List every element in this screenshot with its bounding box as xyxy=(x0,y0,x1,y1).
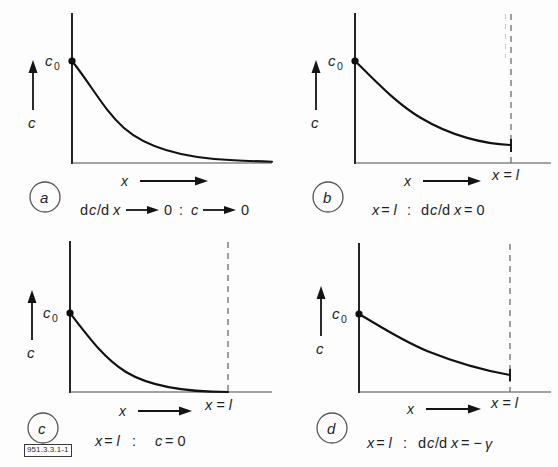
c0-label: c xyxy=(328,52,336,69)
condition-c2: c xyxy=(191,202,199,218)
c0-subscript: 0 xyxy=(52,312,58,324)
scan-edge-artifact xyxy=(505,14,506,58)
condition-arrow1-head xyxy=(147,206,159,214)
panel-letter: d xyxy=(327,420,336,437)
panel-a: c c 0 x a d c /d x 0 xyxy=(0,0,279,233)
condition-arrow2-head xyxy=(224,206,236,214)
panel-b: c c 0 x x = l b x = l : d c /d xyxy=(279,0,558,233)
y-axis-label: c xyxy=(27,344,35,361)
panel-condition: d c /d x 0 : c 0 xyxy=(80,202,249,218)
condition-c: c xyxy=(155,433,163,449)
panel-letter: b xyxy=(323,189,331,206)
concentration-curve xyxy=(72,61,272,162)
condition-colon: : xyxy=(407,202,411,218)
condition-eq-neg: = − xyxy=(461,435,482,451)
x-axis-arrow-head xyxy=(195,177,208,186)
condition-eq-zero: = 0 xyxy=(464,202,485,218)
x-axis-arrow-head xyxy=(179,407,192,416)
c0-subscript: 0 xyxy=(337,60,343,72)
figure-root: c c 0 x a d c /d x 0 xyxy=(0,0,558,467)
condition-c1: c xyxy=(89,202,97,218)
panel-letter: a xyxy=(40,189,48,206)
condition-x2: x xyxy=(450,435,459,451)
y-axis-label: c xyxy=(316,340,324,357)
x-axis-arrow-head xyxy=(468,177,481,186)
panel-d: c c 0 x x = l d x = l : d c /d x xyxy=(279,234,558,467)
condition-x: x xyxy=(94,433,103,449)
condition-c: c xyxy=(430,202,438,218)
panel-condition: x = l : d c /d x = − γ xyxy=(366,435,493,452)
c0-label: c xyxy=(332,305,340,322)
condition-colon: : xyxy=(132,433,136,449)
condition-d: d xyxy=(418,435,426,451)
condition-d: d xyxy=(421,202,429,218)
condition-slash-d: /d xyxy=(438,202,450,218)
c0-subscript: 0 xyxy=(341,313,347,325)
c-axis-arrow-head xyxy=(29,60,38,73)
c-axis-arrow-head xyxy=(28,290,37,303)
c0-label: c xyxy=(43,304,51,321)
condition-x: x xyxy=(371,202,380,218)
c-axis-arrow-head xyxy=(317,286,326,299)
c0-label: c xyxy=(45,52,53,69)
condition-x1: x xyxy=(112,202,121,218)
x-axis-arrow-head xyxy=(468,405,481,414)
x-equals-l-label: x = l xyxy=(491,167,520,183)
x-axis-label: x xyxy=(406,401,415,417)
concentration-curve xyxy=(359,314,510,375)
condition-eq-l: = l xyxy=(376,435,392,451)
condition-d1: d xyxy=(80,202,88,218)
condition-eq-zero: = 0 xyxy=(165,433,186,449)
condition-slash-d: /d xyxy=(435,435,447,451)
x-axis-label: x xyxy=(118,403,127,419)
condition-eq-l: = l xyxy=(381,202,397,218)
x-axis-label: x xyxy=(120,173,129,189)
c0-subscript: 0 xyxy=(54,60,60,72)
concentration-curve xyxy=(355,61,511,145)
c-axis-arrow-head xyxy=(312,60,321,73)
condition-eq-l: = l xyxy=(104,433,120,449)
condition-x2: x xyxy=(453,202,462,218)
condition-gamma: γ xyxy=(485,436,493,452)
x-equals-l-label: x = l xyxy=(204,397,233,413)
panel-condition: x = l : c = 0 xyxy=(94,433,186,449)
x-equals-l-label: x = l xyxy=(490,395,519,411)
condition-x: x xyxy=(366,435,375,451)
condition-slash-d: /d xyxy=(97,202,109,218)
condition-c: c xyxy=(427,435,435,451)
condition-colon: : xyxy=(179,202,183,218)
x-axis-label: x xyxy=(403,173,412,189)
figure-id-stamp: 951.3.3.1-1 xyxy=(24,444,72,457)
condition-zero2: 0 xyxy=(241,202,249,218)
panel-c: c c 0 x x = l c x = l : c = 0 xyxy=(0,234,279,467)
y-axis-label: c xyxy=(311,114,319,131)
panel-letter: c xyxy=(38,420,46,437)
condition-zero1: 0 xyxy=(164,202,172,218)
concentration-curve xyxy=(70,313,228,392)
condition-colon: : xyxy=(403,435,407,451)
panel-condition: x = l : d c /d x = 0 xyxy=(371,202,485,218)
y-axis-label: c xyxy=(28,114,36,131)
